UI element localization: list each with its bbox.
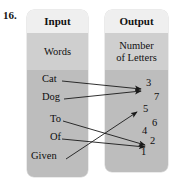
output-panel-title: Output (105, 15, 168, 27)
output-number-1: 1 (141, 146, 146, 157)
output-panel-subtitle: Number of Letters (105, 40, 168, 63)
output-number-6: 6 (152, 117, 157, 128)
output-number-3: 3 (146, 77, 151, 88)
question-number: 16. (3, 9, 17, 21)
output-number-4: 4 (142, 125, 147, 136)
output-number-5: 5 (143, 103, 148, 114)
input-word-to: To (50, 113, 61, 124)
input-word-cat: Cat (42, 73, 57, 84)
input-word-dog: Dog (42, 91, 60, 102)
output-subtitle-line1: Number (119, 40, 153, 51)
output-subtitle-line2: of Letters (116, 52, 157, 63)
output-number-2: 2 (150, 135, 155, 146)
output-panel-body-band (105, 70, 168, 172)
input-panel-subtitle: Words (27, 46, 88, 58)
input-word-given: Given (31, 150, 57, 161)
output-number-7: 7 (154, 91, 159, 102)
diagram-canvas: 16. Input Words Output Number of Letters… (0, 0, 182, 186)
input-word-of: Of (50, 131, 61, 142)
input-panel-title: Input (27, 15, 88, 27)
